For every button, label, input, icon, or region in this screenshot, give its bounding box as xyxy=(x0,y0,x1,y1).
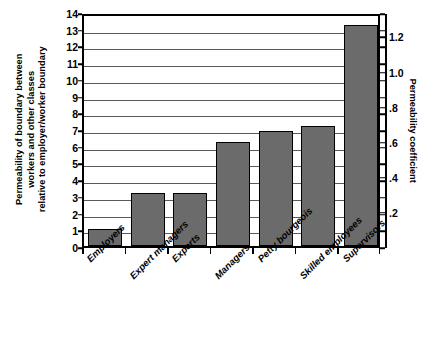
y-axis-tick-label: 8 xyxy=(56,109,78,120)
secondary-axis-tick-mark xyxy=(379,107,385,109)
y-axis-title-right: Permeability coefficient xyxy=(400,14,424,248)
bar xyxy=(131,193,165,246)
y-axis-title-line-3: relative to employer/worker boundary xyxy=(37,46,49,212)
y-axis-tick-mark xyxy=(78,214,82,216)
y-axis-tick-mark xyxy=(78,30,82,32)
y-axis-tick-label: 7 xyxy=(56,126,78,137)
secondary-axis-minor-tick xyxy=(380,13,385,15)
secondary-axis-tick-mark xyxy=(379,177,385,179)
secondary-axis-minor-tick xyxy=(380,180,385,182)
y-axis-tick-mark xyxy=(78,80,82,82)
y-axis-tick-label: 5 xyxy=(56,159,78,170)
y-axis-title-left: Permeability of boundary between workers… xyxy=(0,0,62,258)
chart-figure: Permeability of boundary between workers… xyxy=(0,0,425,337)
secondary-axis-tick-label: .8 xyxy=(389,102,398,113)
y-axis-tick-mark xyxy=(78,130,82,132)
y-axis-tick-mark xyxy=(78,231,82,233)
secondary-axis-minor-tick xyxy=(380,130,385,132)
secondary-axis-minor-tick xyxy=(380,231,385,233)
y-axis-title-line-2: workers and other classes xyxy=(25,46,37,212)
y-axis-tick-mark xyxy=(78,147,82,149)
y-axis-title-left-text: Permeability of boundary between workers… xyxy=(14,46,49,212)
y-axis-tick-mark xyxy=(78,180,82,182)
y-axis-tick-label: 10 xyxy=(56,76,78,87)
x-axis-category-labels: EmployersExpert managersExpertsManagersP… xyxy=(0,254,425,337)
y-axis-tick-label: 13 xyxy=(56,25,78,36)
secondary-axis-minor-tick xyxy=(380,214,385,216)
bar xyxy=(301,126,335,246)
secondary-axis-minor-tick xyxy=(380,47,385,49)
y-axis-tick-mark xyxy=(78,97,82,99)
y-axis-tick-mark xyxy=(78,47,82,49)
secondary-axis-tick-label: 1.0 xyxy=(389,67,404,78)
secondary-axis-tick-mark xyxy=(379,37,385,39)
y-axis-tick-label: 3 xyxy=(56,193,78,204)
y-axis-tick-mark xyxy=(78,197,82,199)
y-axis-tick-mark xyxy=(78,13,82,15)
secondary-axis-minor-tick xyxy=(380,80,385,82)
secondary-axis-minor-tick xyxy=(380,30,385,32)
secondary-axis-tick-label: .2 xyxy=(389,208,398,219)
secondary-axis-line xyxy=(385,14,387,248)
secondary-axis-minor-tick xyxy=(380,247,385,249)
y-axis-tick-label: 12 xyxy=(56,42,78,53)
secondary-axis-tick-mark xyxy=(379,72,385,74)
y-axis-title-line-1: Permeability of boundary between xyxy=(14,46,26,212)
y-axis-tick-label: 9 xyxy=(56,92,78,103)
bar xyxy=(344,25,378,246)
y-axis-title-right-text: Permeability coefficient xyxy=(407,79,416,183)
bar-series xyxy=(84,16,378,246)
y-axis-tick-label: 6 xyxy=(56,142,78,153)
y-axis-tick-label: 11 xyxy=(56,59,78,70)
secondary-axis-minor-tick xyxy=(380,114,385,116)
y-axis-tick-label: 4 xyxy=(56,176,78,187)
bar xyxy=(216,142,250,246)
plot-area xyxy=(82,14,380,248)
y-axis-tick-mark xyxy=(78,63,82,65)
secondary-axis-tick-mark xyxy=(379,142,385,144)
y-axis-tick-labels-left: 01234567891011121314 xyxy=(56,14,78,248)
secondary-axis-minor-tick xyxy=(380,164,385,166)
secondary-axis-minor-tick xyxy=(380,97,385,99)
y-axis-tick-mark xyxy=(78,114,82,116)
secondary-axis-tick-label: .6 xyxy=(389,137,398,148)
y-axis-tick-label: 14 xyxy=(56,9,78,20)
secondary-axis-minor-tick xyxy=(380,63,385,65)
secondary-axis-tick-label: .4 xyxy=(389,173,398,184)
secondary-axis-minor-tick xyxy=(380,147,385,149)
secondary-axis-tick-label: 1.2 xyxy=(389,32,404,43)
y-axis-tick-mark xyxy=(78,164,82,166)
secondary-axis-minor-tick xyxy=(380,197,385,199)
y-axis-tick-mark xyxy=(78,247,82,249)
y-axis-tick-label: 1 xyxy=(56,226,78,237)
y-axis-tick-label: 2 xyxy=(56,209,78,220)
y-axis-tick-label: 0 xyxy=(56,243,78,254)
